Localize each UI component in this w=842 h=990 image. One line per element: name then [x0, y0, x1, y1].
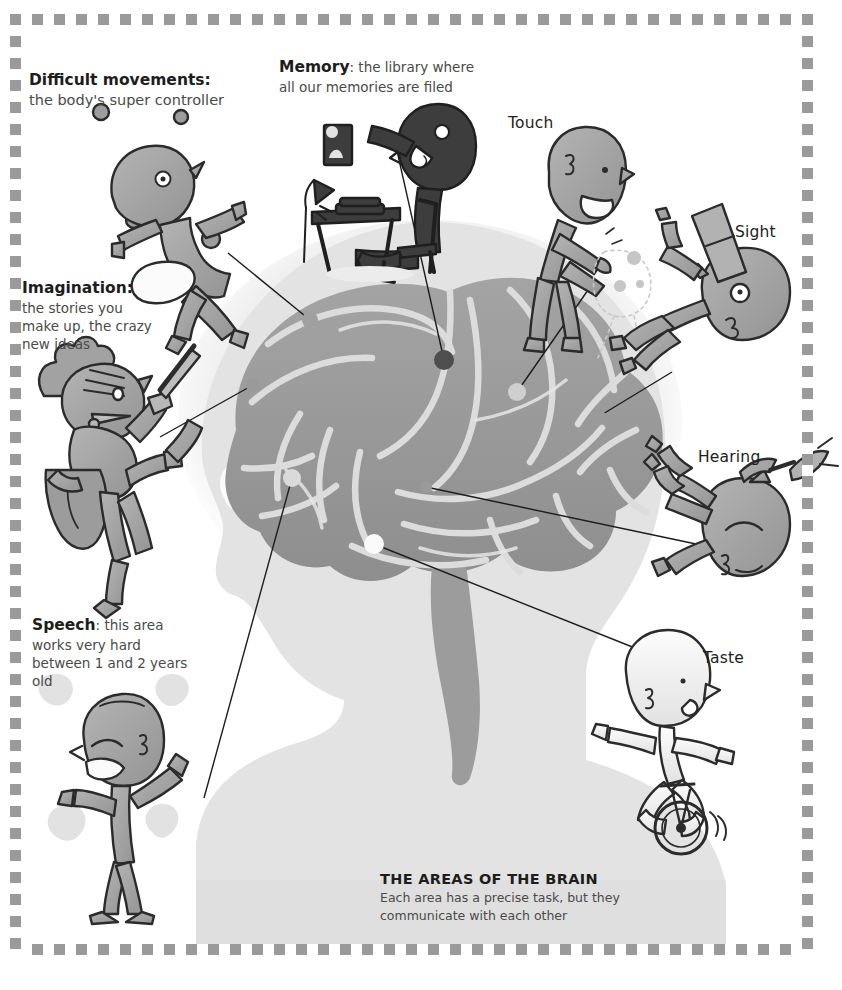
character-knight [39, 337, 202, 618]
marker-imagination[interactable] [246, 378, 260, 392]
label-touch: Touch [508, 114, 554, 132]
character-shouter [38, 674, 188, 924]
marker-memory[interactable] [434, 350, 454, 370]
label-imagination-separator: : [127, 279, 133, 297]
label-imagination-heading: Imagination [22, 279, 127, 297]
label-difficult-movements-heading: Difficult movements [29, 71, 205, 89]
poster-page: Difficult movements: the body's super co… [0, 0, 842, 990]
frame-top-border [10, 14, 813, 25]
label-sight: Sight [735, 223, 776, 241]
marker-sight[interactable] [590, 409, 606, 425]
label-imagination-body: the stories you make up, the crazy new i… [22, 299, 162, 353]
label-memory-separator: : [349, 59, 354, 75]
frame-bottom-border [10, 944, 813, 955]
poster-caption: THE AREAS OF THE BRAIN Each area has a p… [380, 871, 680, 924]
label-speech-heading: Speech [32, 616, 96, 634]
marker-speech[interactable] [283, 469, 301, 487]
label-hearing: Hearing [698, 448, 760, 466]
frame-right-border [802, 14, 813, 955]
frame-left-border [10, 14, 21, 955]
poster-caption-subtitle: Each area has a precise task, but they c… [380, 889, 680, 924]
marker-hearing[interactable] [420, 481, 432, 493]
label-difficult-movements: Difficult movements: the body's super co… [29, 70, 249, 110]
label-memory-heading: Memory [279, 58, 349, 76]
label-difficult-movements-body: the body's super controller [29, 91, 249, 110]
brain-illustration [0, 0, 842, 990]
marker-touch[interactable] [508, 383, 526, 401]
label-taste: Taste [703, 649, 744, 667]
marker-taste[interactable] [364, 534, 384, 554]
label-difficult-movements-separator: : [205, 71, 211, 89]
label-speech: Speech: this area works very hard betwee… [32, 615, 192, 690]
marker-difficult-movements[interactable] [302, 312, 318, 328]
poster-caption-title: THE AREAS OF THE BRAIN [380, 871, 680, 887]
label-memory: Memory: the library where all our memori… [279, 57, 484, 96]
label-imagination: Imagination: the stories you make up, th… [22, 278, 162, 353]
label-speech-separator: : [96, 617, 101, 633]
